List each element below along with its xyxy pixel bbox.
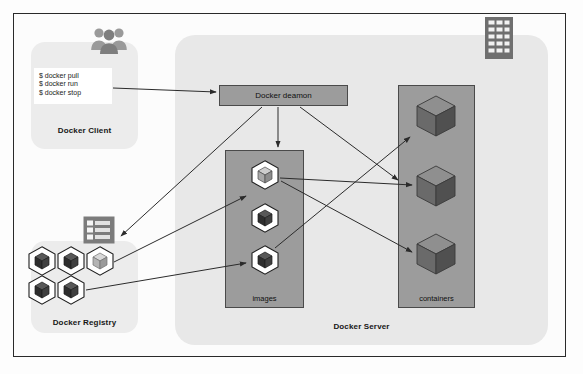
registry-image-cube [28, 275, 56, 305]
docker-architecture-diagram: Docker Server Docker Client Docker Regis… [0, 0, 583, 374]
docker-client-label: Docker Client [31, 126, 138, 135]
registry-image-cube [57, 246, 85, 276]
image-cube [251, 203, 279, 233]
image-cube [251, 245, 279, 275]
registry-image-cube [57, 275, 85, 305]
docker-client-commands: $ docker pull $ docker run $ docker stop [34, 68, 112, 104]
command-line: $ docker stop [39, 89, 107, 97]
docker-server-label: Docker Server [175, 322, 548, 331]
image-cube [251, 160, 279, 190]
registry-image-cube [86, 246, 114, 276]
container-cube [416, 165, 456, 207]
users-icon [88, 24, 130, 56]
server-building-icon [484, 16, 514, 60]
container-cube [416, 233, 456, 275]
docker-registry-label: Docker Registry [31, 318, 138, 327]
containers-store-label: containers [399, 294, 474, 303]
container-cube [416, 95, 456, 137]
docker-daemon-label: Docker deamon [255, 91, 311, 100]
images-store-label: images [226, 294, 303, 303]
docker-daemon: Docker deamon [219, 85, 348, 106]
command-line: $ docker run [39, 80, 107, 88]
command-line: $ docker pull [39, 72, 107, 80]
registry-image-cube [28, 246, 56, 276]
registry-list-icon [83, 216, 115, 244]
